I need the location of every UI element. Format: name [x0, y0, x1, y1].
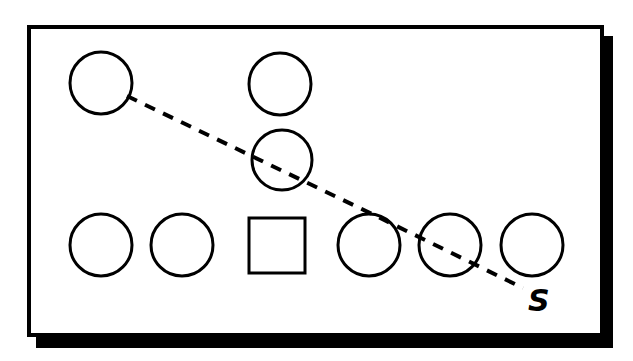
- diagram-canvas: S: [0, 0, 633, 361]
- panel-face: [29, 27, 602, 335]
- figure-root: S: [0, 0, 633, 361]
- path-endpoint-label: S: [528, 283, 550, 318]
- annotation-group: S: [528, 283, 550, 318]
